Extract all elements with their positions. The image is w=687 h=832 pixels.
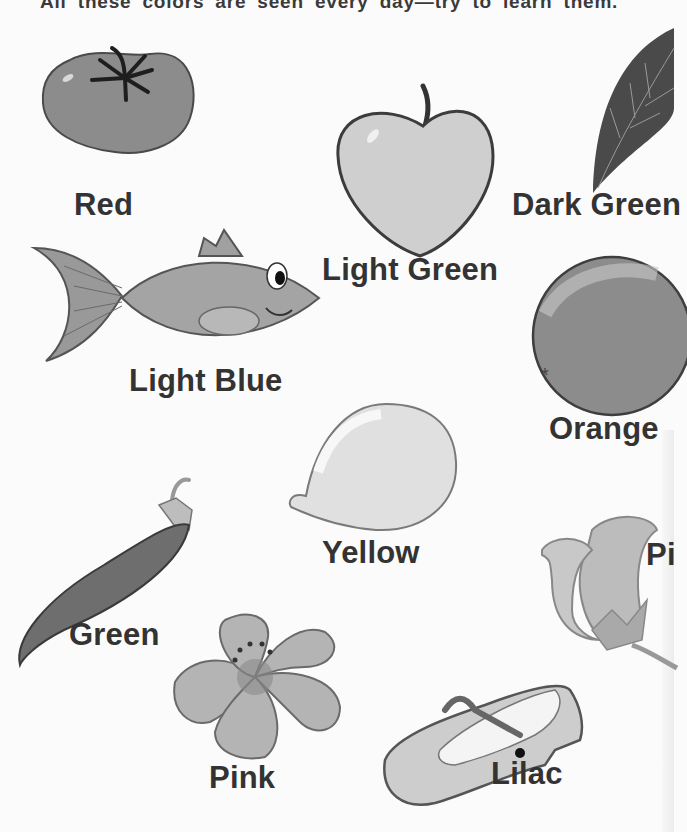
rose-illustration <box>532 510 682 670</box>
leaf-illustration <box>590 28 680 198</box>
orange-illustration: * <box>527 254 687 414</box>
lemon-illustration <box>286 402 461 537</box>
label-yellow: Yellow <box>322 535 420 571</box>
label-pink: Pink <box>209 760 275 796</box>
label-light-green: Light Green <box>322 252 498 288</box>
flower-illustration <box>170 612 350 762</box>
label-lilac: Lilac <box>491 756 563 792</box>
label-dark-green: Dark Green <box>512 187 681 223</box>
fish-illustration <box>34 226 324 386</box>
label-red: Red <box>74 187 133 223</box>
label-green: Green <box>69 617 160 653</box>
label-orange: Orange <box>549 411 659 447</box>
tomato-illustration <box>40 48 200 158</box>
page-header: All these colors are seen every day—try … <box>40 0 674 13</box>
label-pink-partial: Pi <box>646 537 676 573</box>
svg-text:*: * <box>541 364 549 386</box>
label-light-blue: Light Blue <box>129 363 283 399</box>
apple-illustration <box>335 84 495 259</box>
